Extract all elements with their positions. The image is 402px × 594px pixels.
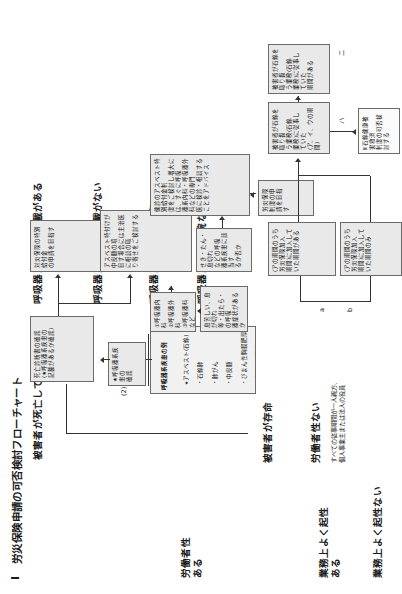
marker-b: b <box>346 308 354 312</box>
list-item: びまん性胸膜肥厚 <box>241 330 248 385</box>
connector <box>58 303 130 304</box>
marker-a: a <box>318 308 326 312</box>
box-asbestos-clinic-confirm[interactable]: アスベスト特付けが中皮腫の項 目す場合には主治医に相談の取 り寄せをご検討する <box>100 210 192 272</box>
connector <box>130 276 131 304</box>
connector <box>298 175 370 176</box>
connector <box>102 359 110 360</box>
box-relief-system[interactable]: Ⅱ 石綿健康被害救済 制度の可否検討する <box>358 108 400 154</box>
heading-victim-alive: 被害者が存命 <box>262 402 274 463</box>
connector <box>66 433 248 434</box>
arrow-icon <box>295 96 301 100</box>
box-resp-department-list[interactable]: ①呼吸器内科 ②呼吸器外科 ③呼吸器科など <box>150 292 196 332</box>
connector <box>171 286 172 292</box>
marker-ha: ハ <box>336 117 346 124</box>
heading-worker-status-yes: 労働者性 ある <box>180 537 203 578</box>
box-breath-detail-check[interactable]: せき・たん・息切れ などの呼吸 器系疾患に該当す るか否か <box>196 228 252 272</box>
list-item: 良性石綿胸水 <box>255 330 256 385</box>
heading-worker-status-no: 労働者性ない <box>310 402 322 463</box>
box-asbestos-work-history-1[interactable]: 被害者が石綿を取り扱 う業務(石綿 業務)に従事していた (ア、イ、ウの期間) <box>268 102 330 154</box>
connector <box>66 384 67 434</box>
connector <box>58 276 59 316</box>
page-title: 労災保険申請の可否検討フローチャート <box>9 377 24 564</box>
box-asbestos-period-b[interactable]: (アの期間のうち労災保険加入 期間)に加入していた期間のみ <box>340 222 402 276</box>
connector <box>146 359 152 360</box>
document-number: Ⅰ <box>9 576 21 580</box>
box-breath-symptom-check[interactable]: 息苦しい、息が切れ 等・出たら・の呼吸 器症状があるか <box>200 286 248 332</box>
box-asbestos-work-history-2[interactable]: 被害者が石綿を取り扱 う業務(石綿 業務)に従事していた 期間がある <box>268 44 330 94</box>
marker-2: (2) <box>120 387 128 396</box>
resp-disease-list-items: アスベスト(石綿) 石綿肺 肺がん 中皮腫 びまん性胸膜肥厚 良性石綿胸水 円形… <box>176 330 256 390</box>
arrow-icon <box>100 357 104 363</box>
list-item: 肺がん <box>212 330 219 385</box>
heading-work-related-no: 業務上よく起性ない <box>372 486 384 578</box>
list-item: 石綿肺 <box>197 330 204 385</box>
connector <box>300 276 301 302</box>
arrow-icon <box>55 274 61 278</box>
rotated-page-wrapper: Ⅰ 労災保険申請の可否検討フローチャート 被害者が死亡している 呼吸器系疾患の記… <box>0 0 402 594</box>
connector <box>370 276 371 302</box>
connector <box>300 301 370 302</box>
document-sheet: Ⅰ 労災保険申請の可否検討フローチャート 被害者が死亡している 呼吸器系疾患の記… <box>0 0 402 594</box>
connector <box>148 334 149 386</box>
connector <box>298 160 299 222</box>
box-resp-disease-list[interactable]: 呼吸器系疾患の例 アスベスト(石綿) 石綿肺 肺がん 中皮腫 びまん性胸膜肥厚 … <box>150 326 256 394</box>
heading-work-related-yes: 業務上よく起性 ある <box>318 507 341 578</box>
box-resp-result-target[interactable]: 労災保険制度の申請を目指す <box>258 180 314 216</box>
list-item: 中皮腫 <box>226 330 233 385</box>
list-item: アスベスト(石綿) <box>183 330 190 385</box>
arrow-icon <box>127 274 133 278</box>
connector <box>370 176 371 222</box>
box-death-cert-confirm[interactable]: 死亡診断書の確認 (★呼吸器系疾患の 記載があるか確認) <box>30 316 94 382</box>
arrow-icon <box>295 158 301 162</box>
arrow-icon <box>197 308 201 314</box>
box-asbestos-advice[interactable]: 健診のアスベスト特別給付金制 度をご検討し増大には、すぐに呼吸 器系内科・呼吸器… <box>150 154 250 216</box>
arrow-icon <box>352 129 356 135</box>
box-asbestos-period-a[interactable]: (アの期間のうち労災保険加入 期間)に加入していた期間がある <box>268 222 336 276</box>
box-resp-disease-check[interactable]: ★呼吸器系疾患の 確認 <box>108 342 146 386</box>
note-worker-status-no: すべての従事期間が一人親方、 個人事業主または法人の役員 <box>330 303 346 463</box>
arrow-icon <box>219 216 225 220</box>
arrow-icon <box>250 192 254 198</box>
resp-disease-list-header: 呼吸器系疾患の例 <box>161 330 168 390</box>
marker-ni: ニ <box>336 49 346 56</box>
